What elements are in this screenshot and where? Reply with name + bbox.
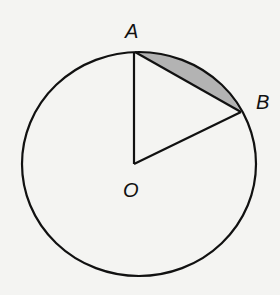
label-b: B xyxy=(256,91,269,113)
label-a: A xyxy=(124,20,138,42)
label-o: O xyxy=(123,179,139,201)
diagram-svg: A B O xyxy=(0,0,280,295)
circle-diagram: A B O xyxy=(0,0,280,295)
radius-ob xyxy=(134,112,241,164)
chord-ab xyxy=(135,52,241,112)
